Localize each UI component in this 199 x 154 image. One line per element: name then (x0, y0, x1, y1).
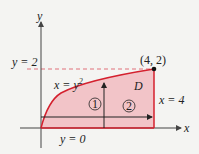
label-curve: x = y2 (53, 77, 83, 92)
order-mark-2: 2 (126, 99, 132, 113)
label-point: (4, 2) (140, 53, 166, 67)
order-mark-1: 1 (92, 97, 98, 111)
label-y2: y = 2 (11, 55, 37, 69)
point-4-2 (152, 67, 157, 72)
x-axis-label: x (183, 121, 190, 135)
region-diagram: y x y = 2 (4, 2) x = y2 D x = 4 y = 0 1 … (0, 0, 199, 154)
label-y0: y = 0 (59, 132, 85, 146)
label-region-d: D (133, 79, 143, 93)
label-x4: x = 4 (158, 93, 184, 107)
y-axis-label: y (36, 9, 43, 23)
